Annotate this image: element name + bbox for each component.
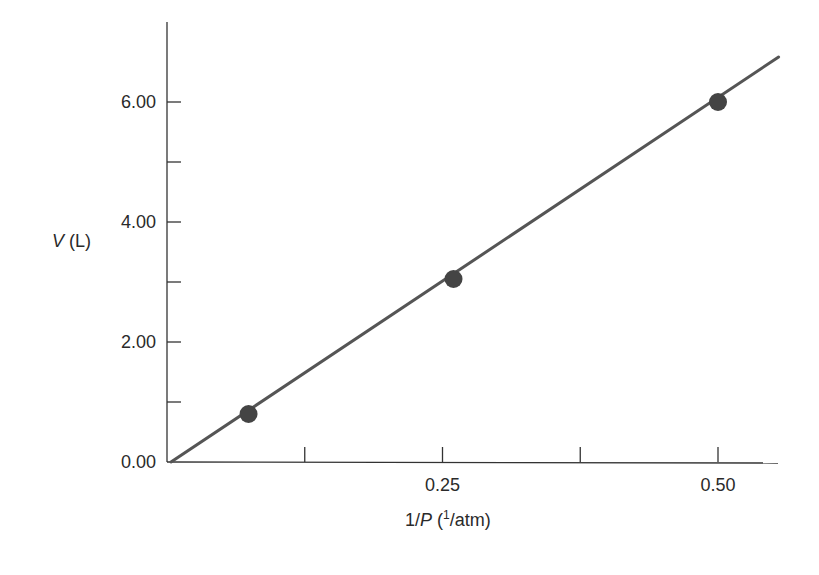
x-axis-label: 1/P (1/atm) [405,508,491,530]
y-axis-label: V (L) [52,231,91,251]
x-tick-label: 0.50 [700,475,735,495]
y-tick-label: 6.00 [121,92,156,112]
x-axis-suffix: /atm) [450,510,491,530]
series [171,57,779,462]
data-point [240,405,258,423]
chart: 0.002.004.006.000.250.50 V (L) 1/P (1/at… [0,0,819,575]
best-fit-line [171,57,779,462]
x-axis-prefix: 1/ [405,510,420,530]
y-tick-label: 2.00 [121,332,156,352]
x-tick-label: 0.25 [425,475,460,495]
x-axis-var: P [420,510,432,530]
y-tick-label: 0.00 [121,452,156,472]
y-axis-unit: (L) [64,231,91,251]
axes [167,22,778,463]
data-point [709,93,727,111]
x-axis-open: ( [432,510,443,530]
data-point [445,270,463,288]
y-tick-label: 4.00 [121,212,156,232]
x-axis-line [167,462,778,463]
